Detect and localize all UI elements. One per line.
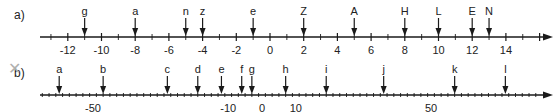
arrow-head-icon xyxy=(469,28,475,36)
point-label: c xyxy=(165,63,171,75)
point-marker-A: A xyxy=(351,5,359,36)
number-line-a: a)-12-10-8-6-4-202468101214ganzeZAHLEN xyxy=(14,5,553,56)
arrow-head-icon xyxy=(283,86,289,94)
arrow-head-icon xyxy=(301,28,307,36)
point-marker-N: N xyxy=(485,5,493,36)
arrow-head-icon xyxy=(486,28,492,36)
point-marker-l: l xyxy=(502,63,508,94)
axis-arrow-icon xyxy=(543,34,553,41)
arrow-head-icon xyxy=(402,28,408,36)
arrow-head-icon xyxy=(200,28,206,36)
arrow-head-icon xyxy=(502,86,508,94)
arrow-head-icon xyxy=(183,28,189,36)
arrow-head-icon xyxy=(323,86,329,94)
point-label: g xyxy=(82,5,88,17)
point-marker-f: f xyxy=(239,63,245,94)
point-label: a xyxy=(132,5,139,17)
point-label: i xyxy=(325,63,327,75)
point-marker-i: i xyxy=(323,63,329,94)
point-label: a xyxy=(56,63,63,75)
tick-label: 8 xyxy=(402,44,408,56)
point-marker-Z: Z xyxy=(300,5,307,36)
point-marker-a: a xyxy=(56,63,63,94)
tick-label: 6 xyxy=(368,44,374,56)
tick-label: 2 xyxy=(301,44,307,56)
point-label: e xyxy=(250,5,256,17)
point-label: H xyxy=(401,5,409,17)
point-label: N xyxy=(485,5,493,17)
point-label: L xyxy=(435,5,441,17)
axis-arrow-icon xyxy=(543,92,553,99)
cross-mark-icon: ✕ xyxy=(8,60,21,77)
point-label: Z xyxy=(300,5,307,17)
point-marker-e: e xyxy=(250,5,256,36)
number-lines-diagram: a)-12-10-8-6-4-202468101214ganzeZAHLEN b… xyxy=(0,0,557,112)
point-marker-z: z xyxy=(200,5,206,36)
point-marker-c: c xyxy=(164,63,170,94)
point-marker-E: E xyxy=(469,5,476,36)
tick-label: 0 xyxy=(259,102,265,112)
tick-label: -50 xyxy=(85,102,101,112)
point-label: d xyxy=(195,63,201,75)
point-label: k xyxy=(452,63,458,75)
point-marker-L: L xyxy=(435,5,441,36)
number-line-b: b)-50-1001050abcdefghijkl xyxy=(14,63,553,112)
arrow-head-icon xyxy=(436,28,442,36)
point-label: E xyxy=(469,5,476,17)
point-marker-g: g xyxy=(82,5,88,36)
point-label: b xyxy=(100,63,106,75)
arrow-head-icon xyxy=(239,86,245,94)
tick-label: -10 xyxy=(220,102,236,112)
point-label: j xyxy=(381,63,384,75)
point-marker-g: g xyxy=(249,63,255,94)
part-label-a: a) xyxy=(14,8,25,22)
point-marker-j: j xyxy=(381,63,387,94)
tick-label: 12 xyxy=(466,44,478,56)
arrow-head-icon xyxy=(218,86,224,94)
tick-label: -12 xyxy=(60,44,76,56)
tick-label: -10 xyxy=(94,44,110,56)
arrow-head-icon xyxy=(82,28,88,36)
tick-label: -2 xyxy=(231,44,241,56)
arrow-head-icon xyxy=(132,28,138,36)
arrow-head-icon xyxy=(195,86,201,94)
point-marker-h: h xyxy=(283,63,289,94)
point-marker-k: k xyxy=(452,63,458,94)
arrow-head-icon xyxy=(249,86,255,94)
point-marker-d: d xyxy=(195,63,201,94)
tick-label: -8 xyxy=(130,44,140,56)
point-label: g xyxy=(249,63,255,75)
point-marker-H: H xyxy=(401,5,409,36)
point-marker-n: n xyxy=(183,5,189,36)
point-label: l xyxy=(504,63,506,75)
tick-label: 14 xyxy=(500,44,512,56)
point-marker-e: e xyxy=(218,63,224,94)
arrow-head-icon xyxy=(250,28,256,36)
point-label: h xyxy=(283,63,289,75)
tick-label: -4 xyxy=(198,44,208,56)
tick-label: -6 xyxy=(164,44,174,56)
point-label: A xyxy=(351,5,359,17)
point-label: n xyxy=(183,5,189,17)
tick-label: 10 xyxy=(290,102,302,112)
arrow-head-icon xyxy=(164,86,170,94)
tick-label: 50 xyxy=(425,102,437,112)
point-marker-b: b xyxy=(100,63,106,94)
point-label: f xyxy=(240,63,244,75)
arrow-head-icon xyxy=(381,86,387,94)
point-label: z xyxy=(200,5,206,17)
tick-label: 10 xyxy=(432,44,444,56)
point-marker-a: a xyxy=(132,5,139,36)
arrow-head-icon xyxy=(100,86,106,94)
point-label: e xyxy=(218,63,224,75)
arrow-head-icon xyxy=(351,28,357,36)
tick-label: 0 xyxy=(267,44,273,56)
tick-label: 4 xyxy=(334,44,340,56)
arrow-head-icon xyxy=(452,86,458,94)
arrow-head-icon xyxy=(56,86,62,94)
